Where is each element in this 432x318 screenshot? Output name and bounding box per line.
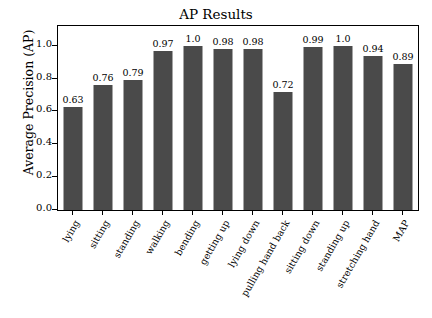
x-tick-mark xyxy=(72,211,73,215)
y-tick-mark xyxy=(52,176,57,177)
bar-slot: 0.97 xyxy=(148,26,178,210)
bar-slot: 0.79 xyxy=(118,26,148,210)
bar-value-label: 0.98 xyxy=(212,36,233,47)
x-tick-mark xyxy=(222,211,223,215)
bar-slot: 0.89 xyxy=(388,26,418,210)
bar xyxy=(274,92,293,210)
x-tick-mark xyxy=(192,211,193,215)
bar-slot: 0.98 xyxy=(238,26,268,210)
bar-slot: 0.94 xyxy=(358,26,388,210)
chart-title: AP Results xyxy=(0,6,432,22)
bar-slot: 0.72 xyxy=(268,26,298,210)
x-tick-mark xyxy=(342,211,343,215)
x-tick-label-text: bending xyxy=(172,218,201,257)
x-tick-mark xyxy=(402,211,403,215)
bar-value-label: 1.0 xyxy=(335,33,350,44)
y-tick-mark xyxy=(52,143,57,144)
bar xyxy=(214,49,233,210)
y-tick-mark xyxy=(52,78,57,79)
bar xyxy=(394,64,413,210)
x-tick-label-text: standing xyxy=(111,218,141,260)
bar-value-label: 0.94 xyxy=(362,43,383,54)
bar-slot: 0.98 xyxy=(208,26,238,210)
x-tick-label-text: lying xyxy=(60,218,81,244)
x-tick-mark xyxy=(102,211,103,215)
x-tick-label-text: walking xyxy=(143,218,171,256)
x-tick-mark xyxy=(282,211,283,215)
bar xyxy=(304,47,323,210)
bar-slot: 0.63 xyxy=(58,26,88,210)
y-tick-mark xyxy=(52,209,57,210)
bar-value-label: 0.76 xyxy=(92,72,113,83)
bar-value-label: 0.79 xyxy=(122,67,143,78)
bar-value-label: 0.99 xyxy=(302,34,323,45)
x-tick-label-text: sitting xyxy=(87,218,112,250)
bar-value-label: 0.89 xyxy=(392,51,413,62)
bar xyxy=(154,51,173,210)
bar xyxy=(334,46,353,210)
x-tick-mark xyxy=(132,211,133,215)
bar-value-label: 0.97 xyxy=(152,38,173,49)
bar xyxy=(184,46,203,210)
bar xyxy=(94,85,113,210)
y-tick-label: 0.6 xyxy=(12,103,52,114)
x-tick-mark xyxy=(372,211,373,215)
bar xyxy=(64,107,83,211)
bar-value-label: 0.72 xyxy=(272,79,293,90)
bar-slot: 1.0 xyxy=(328,26,358,210)
bar-slot: 0.76 xyxy=(88,26,118,210)
x-tick-label-text: getting up xyxy=(197,218,231,267)
chart-figure: AP Results Average Precision (AP) 0.630.… xyxy=(0,0,432,318)
bar xyxy=(124,80,143,210)
y-tick-label: 0.0 xyxy=(12,202,52,213)
plot-area: 0.630.760.790.971.00.980.980.720.991.00.… xyxy=(57,25,419,211)
bar xyxy=(364,56,383,210)
y-tick-label: 1.0 xyxy=(12,38,52,49)
x-tick-label-text: MAP xyxy=(391,218,412,243)
bar-value-label: 1.0 xyxy=(185,33,200,44)
x-tick-mark xyxy=(162,211,163,215)
bar xyxy=(244,49,263,210)
bar-value-label: 0.98 xyxy=(242,36,263,47)
x-tick-mark xyxy=(252,211,253,215)
bar-slot: 1.0 xyxy=(178,26,208,210)
y-tick-label: 0.2 xyxy=(12,169,52,180)
bar-series: 0.630.760.790.971.00.980.980.720.991.00.… xyxy=(58,26,418,210)
y-tick-mark xyxy=(52,110,57,111)
y-tick-mark xyxy=(52,45,57,46)
y-tick-label: 0.8 xyxy=(12,71,52,82)
bar-value-label: 0.63 xyxy=(62,94,83,105)
y-tick-label: 0.4 xyxy=(12,136,52,147)
bar-slot: 0.99 xyxy=(298,26,328,210)
x-tick-mark xyxy=(312,211,313,215)
